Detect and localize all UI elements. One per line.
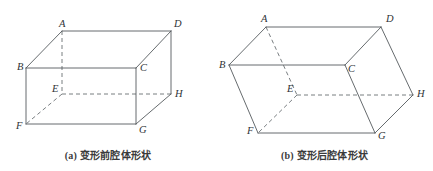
vertex-label-panel-a-f: F [15,120,23,131]
panel-a-geometry: ABCDEFGH [15,18,184,135]
vertex-label-panel-b-d: D [385,13,394,24]
edge-solid-BF [229,65,258,133]
edge-solid-CD [345,27,381,65]
edge-solid-AB [229,27,266,65]
vertex-label-panel-b-b: B [219,59,226,70]
edge-solid-AB [26,31,62,68]
vertex-label-panel-a-a: A [58,18,66,29]
edge-solid-GH [375,95,413,133]
vertex-label-panel-b-h: H [416,88,426,99]
vertex-label-panel-a-h: H [174,88,184,99]
vertex-label-panel-a-c: C [140,62,148,73]
edge-hidden-EF [26,94,62,124]
vertex-label-panel-a-e: E [51,83,59,94]
vertex-label-panel-b-e: E [286,83,294,94]
panel-b-geometry: ABCDEFGH [219,13,426,141]
edge-solid-GH [136,94,171,124]
geometry-diagram-svg: ABCDEFGH ABCDEFGH [0,0,433,171]
edge-solid-CG [345,65,375,133]
caption-panel-a: (a) 变形前腔体形状 [0,147,216,162]
vertex-label-panel-b-a: A [260,13,268,24]
figure-root: ABCDEFGH ABCDEFGH (a) 变形前腔体形状 (b) 变形后腔体形… [0,0,433,171]
edge-hidden-EF [258,95,297,133]
caption-panel-b: (b) 变形后腔体形状 [216,147,433,162]
vertex-label-panel-b-c: C [348,63,356,74]
vertex-label-panel-a-g: G [139,124,147,135]
vertex-label-panel-a-b: B [17,61,24,72]
vertex-label-panel-a-d: D [173,18,182,29]
edge-solid-DH [381,27,413,95]
vertex-label-panel-b-f: F [246,125,254,136]
vertex-label-panel-b-g: G [378,130,386,141]
